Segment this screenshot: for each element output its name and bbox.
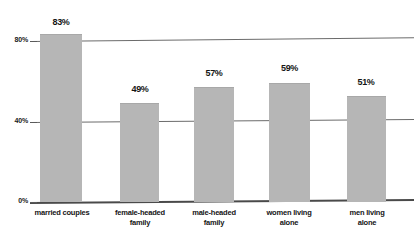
value-label-married-couples: 83% [41, 17, 81, 27]
category-label-women-living-alone: women living alone [251, 208, 327, 228]
bar-women-living-alone[interactable] [269, 83, 310, 202]
gridline-80 [32, 37, 414, 42]
value-label-female-headed-family: 49% [120, 84, 160, 94]
value-label-male-headed-family: 57% [194, 68, 234, 78]
category-label-male-headed-family: male-headed family [176, 208, 252, 228]
tickmark-0 [30, 202, 37, 203]
bar-female-headed-family[interactable] [120, 103, 159, 202]
bar-married-couples[interactable] [40, 34, 82, 202]
ytick-label-80: 80% [8, 36, 28, 43]
bar-male-headed-family[interactable] [194, 87, 234, 202]
tickmark-40 [30, 122, 37, 123]
value-label-women-living-alone: 59% [269, 63, 310, 73]
value-label-men-living-alone: 51% [346, 77, 386, 87]
category-label-men-living-alone: men living alone [329, 208, 405, 228]
bar-men-living-alone[interactable] [347, 96, 386, 202]
chart-page: 80% 40% 0% 83% 49% 57% 59% 51% married c… [0, 0, 414, 243]
tickmark-80 [30, 41, 37, 42]
category-label-female-headed-family: female-headed family [102, 208, 178, 228]
category-label-married-couples: married couples [24, 208, 100, 218]
ytick-label-0: 0% [8, 197, 28, 204]
ytick-label-40: 40% [8, 117, 28, 124]
plot-area: 80% 40% 0% 83% 49% 57% 59% 51% married c… [0, 0, 414, 243]
